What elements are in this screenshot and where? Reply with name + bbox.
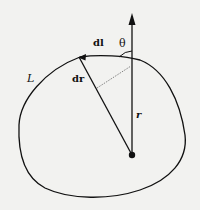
closed-curve-L: [19, 56, 185, 198]
curve-label-L: L: [27, 73, 34, 84]
theta-label: θ: [119, 38, 126, 49]
dr-label: dr: [72, 74, 84, 84]
dr-line: [79, 57, 132, 155]
dotted-projection-line: [97, 66, 131, 88]
r-label: r: [136, 110, 141, 120]
diagram-canvas: L dl dr r θ: [0, 0, 200, 210]
origin-point: [129, 152, 135, 158]
dl-label: dl: [93, 38, 104, 48]
diagram-graphics: [0, 0, 200, 210]
axis-arrowhead-icon: [129, 13, 136, 25]
